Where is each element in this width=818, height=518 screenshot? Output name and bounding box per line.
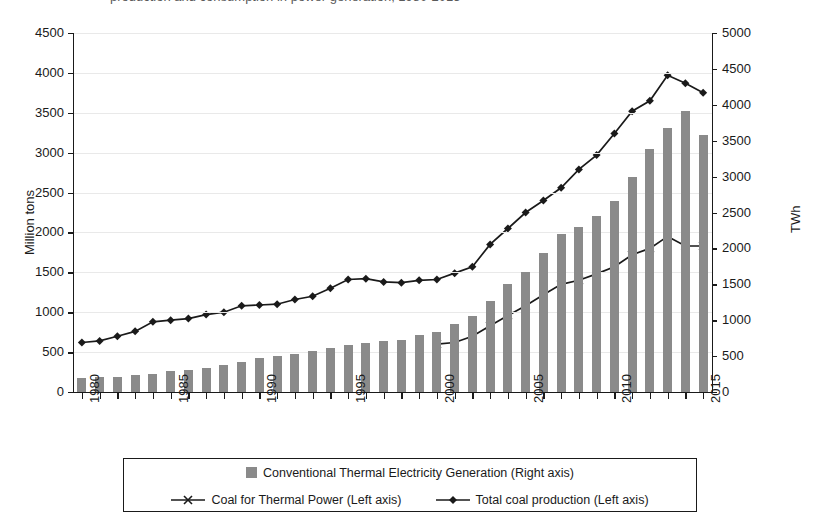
x-axis-tick xyxy=(153,393,154,399)
right-axis-ticklabel: 500 xyxy=(722,348,744,363)
diamond-marker-point xyxy=(78,339,86,347)
x-axis-tick xyxy=(206,393,207,399)
x-axis-ticklabel: 1985 xyxy=(176,374,191,403)
bar xyxy=(326,348,335,392)
left-axis-ticklabel: 1000 xyxy=(35,304,64,319)
diamond-marker-point xyxy=(96,337,104,345)
x-axis-ticklabel: 1990 xyxy=(264,374,279,403)
x-axis-ticklabel: 2000 xyxy=(442,374,457,403)
left-axis-ticklabel: 3000 xyxy=(35,145,64,160)
legend-label-thermal-generation: Conventional Thermal Electricity Generat… xyxy=(263,466,574,480)
right-axis-ticklabel: 4000 xyxy=(722,97,751,112)
bar xyxy=(77,378,86,392)
x-axis-ticklabel: 2015 xyxy=(708,374,723,403)
diamond-marker-point xyxy=(167,316,175,324)
bar xyxy=(166,371,175,392)
x-axis-tick xyxy=(526,393,527,399)
x-axis-tick xyxy=(82,393,83,399)
right-axis-title: TWh xyxy=(788,205,803,232)
bar xyxy=(628,177,637,392)
x-axis-tick xyxy=(437,393,438,399)
left-axis-ticklabel: 3500 xyxy=(35,105,64,120)
diamond-marker-point xyxy=(184,315,192,323)
diamond-marker-point xyxy=(433,276,441,284)
x-axis-tick xyxy=(579,393,580,399)
x-axis-line xyxy=(73,392,713,393)
x-axis-tick xyxy=(685,393,686,399)
right-axis-ticklabel: 2000 xyxy=(722,240,751,255)
right-axis-line xyxy=(712,33,713,393)
bar xyxy=(574,227,583,392)
line-diamond-marker-icon xyxy=(436,494,470,506)
x-axis-tick xyxy=(472,393,473,399)
x-axis-tick xyxy=(224,393,225,399)
legend-label-coal-thermal-power: Coal for Thermal Power (Left axis) xyxy=(211,493,401,507)
bar xyxy=(237,362,246,392)
x-axis-tick xyxy=(259,393,260,399)
bar xyxy=(255,358,264,392)
left-axis-ticklabel: 2500 xyxy=(35,185,64,200)
right-axis-ticklabel: 3500 xyxy=(722,133,751,148)
diamond-marker-point xyxy=(309,292,317,300)
diamond-marker-point xyxy=(326,284,334,292)
bar-swatch-icon xyxy=(246,467,257,478)
left-axis-ticklabel: 0 xyxy=(57,384,64,399)
diamond-marker-point xyxy=(131,327,139,335)
x-axis-ticklabel: 1980 xyxy=(87,374,102,403)
left-axis-ticklabel: 500 xyxy=(42,344,64,359)
gridline xyxy=(73,33,712,34)
diamond-marker-point xyxy=(273,300,281,308)
x-axis-tick xyxy=(490,393,491,399)
diamond-marker-point xyxy=(397,279,405,287)
x-axis-tick xyxy=(401,393,402,399)
x-axis-tick xyxy=(171,393,172,399)
bar xyxy=(699,135,708,392)
bar xyxy=(290,354,299,392)
legend-label-total-coal-production: Total coal production (Left axis) xyxy=(476,493,649,507)
legend-item-total-coal-production: Total coal production (Left axis) xyxy=(436,493,649,507)
gridline xyxy=(73,153,712,154)
bar xyxy=(663,128,672,392)
chart-area: 050010001500200025003000350040004500 050… xyxy=(0,0,818,448)
x-axis-tick xyxy=(561,393,562,399)
bar xyxy=(521,272,530,392)
right-axis-ticklabel: 4500 xyxy=(722,61,751,76)
bar xyxy=(486,301,495,392)
x-axis-tick xyxy=(242,393,243,399)
legend-row-1: Conventional Thermal Electricity Generat… xyxy=(124,459,696,486)
x-axis-tick xyxy=(135,393,136,399)
right-axis-ticklabel: 3000 xyxy=(722,169,751,184)
x-axis-tick xyxy=(668,393,669,399)
bar xyxy=(202,368,211,392)
x-axis-tick xyxy=(614,393,615,399)
bar xyxy=(113,377,122,392)
diamond-marker-point xyxy=(344,276,352,284)
bar xyxy=(148,374,157,392)
right-axis-ticklabel: 5000 xyxy=(722,25,751,40)
diamond-marker-point xyxy=(255,301,263,309)
x-axis-ticklabel: 2005 xyxy=(531,374,546,403)
bar xyxy=(415,335,424,392)
x-axis-tick xyxy=(597,393,598,399)
bar xyxy=(131,375,140,392)
x-axis-tick xyxy=(313,393,314,399)
right-axis-ticklabel: 2500 xyxy=(722,205,751,220)
diamond-marker-point xyxy=(681,79,689,87)
left-axis-line xyxy=(73,33,74,393)
x-axis-tick xyxy=(117,393,118,399)
bar xyxy=(432,332,441,392)
bar xyxy=(379,341,388,392)
bar xyxy=(503,284,512,392)
right-axis-ticklabel: 1000 xyxy=(722,312,751,327)
bar xyxy=(308,351,317,392)
diamond-marker-point xyxy=(291,295,299,303)
x-axis-tick xyxy=(508,393,509,399)
line-cross-marker-icon xyxy=(171,494,205,506)
x-axis-tick xyxy=(650,393,651,399)
x-axis-tick xyxy=(384,393,385,399)
diamond-marker-point xyxy=(362,275,370,283)
x-axis-tick xyxy=(348,393,349,399)
bar xyxy=(610,201,619,392)
bar xyxy=(219,365,228,392)
legend-item-coal-thermal-power: Coal for Thermal Power (Left axis) xyxy=(171,493,401,507)
